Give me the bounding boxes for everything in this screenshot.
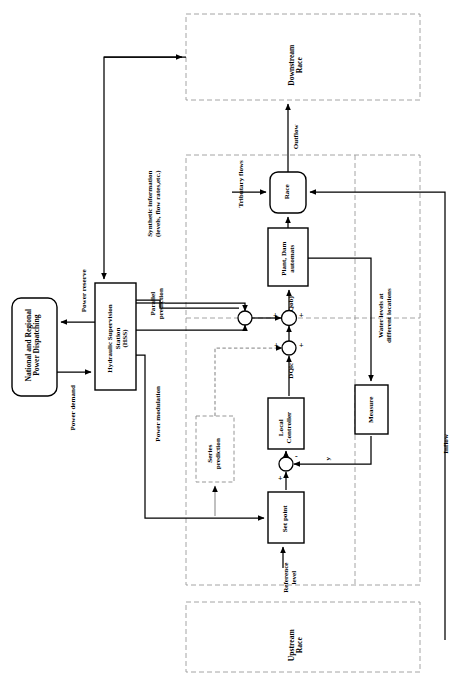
sign-error-plus: + [278, 474, 283, 483]
sign-error-minus: - [295, 452, 298, 461]
local-controller-label: Local Controller [278, 405, 293, 451]
series-prediction-label: Series prediction [207, 435, 222, 473]
power-modulation-label: Power modulation [155, 375, 163, 453]
outflow-label: Outflow [293, 117, 301, 157]
race-label: Race [284, 174, 292, 210]
parallel-prediction-label: Parallel prediction [150, 278, 165, 330]
edge-parallel-top-run [165, 303, 245, 311]
power-demand-label: Power demand [70, 375, 78, 441]
power-reserve-label: Power reserve [81, 259, 89, 323]
downstream-race-label: Downstream Race [288, 35, 304, 95]
sign-qobj-plus-left: + [273, 311, 278, 320]
set-point-label: Set point [282, 498, 290, 540]
sign-qobj-plus-right: + [299, 311, 304, 320]
measure-label: Measure [368, 390, 376, 430]
reference-level-label: Reference level [283, 550, 298, 606]
sign-dqlc-plus-right: + [299, 341, 304, 350]
synthetic-information-label: Synthetic information (levels, flow rate… [147, 148, 162, 260]
hss-label: Hydraulic Supervision Station (HSS) [107, 288, 130, 388]
y-signal-label: y [325, 452, 333, 466]
edge-synthetic-information [104, 57, 186, 279]
dqlc-label: DQlc [288, 358, 296, 384]
plant-dam-label: Plant, Dam automats [281, 233, 296, 285]
junction-parallel [238, 311, 252, 325]
junction-dqlc [282, 341, 296, 355]
edge-water-levels [308, 258, 371, 381]
dispatching-label: National and Regional Power Dispatching [25, 298, 41, 392]
sign-dqlc-plus-left: + [274, 341, 279, 350]
diagram-canvas: National and Regional Power Dispatching … [0, 0, 466, 685]
upstream-race-label: Upstream Race [288, 617, 304, 673]
inflow-label: Inflow [443, 427, 451, 461]
junction-error [279, 457, 293, 471]
qobj-label: Qobj [288, 291, 296, 317]
water-levels-label: Water levels at different locations [378, 268, 393, 364]
diagram-svg [0, 0, 466, 685]
tributary-flows-label: Tributary flows [238, 148, 246, 220]
